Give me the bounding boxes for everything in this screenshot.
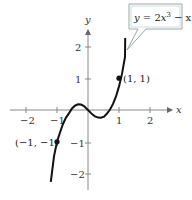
point-1-1 <box>116 76 121 81</box>
y-tick-label: 1 <box>75 74 81 85</box>
y-tick-label: −2 <box>70 169 85 180</box>
point-label-neg1-neg1: (−1, −1) <box>15 137 59 148</box>
x-tick-label: 1 <box>116 115 122 126</box>
equation-label: y = 2x3 − x <box>133 11 192 23</box>
y-tick-label: 2 <box>75 42 81 53</box>
x-tick-label: −2 <box>20 115 35 126</box>
function-graph: x y −2 −1 1 2 2 1 −1 −2 (1, 1) (−1, −1) … <box>0 0 192 200</box>
x-tick-label: 2 <box>147 115 153 126</box>
y-axis-label: y <box>84 14 91 25</box>
point-label-1-1: (1, 1) <box>123 73 150 84</box>
x-axis-label: x <box>176 104 182 115</box>
y-tick-label: −1 <box>70 138 85 149</box>
equation-callout: y = 2x3 − x <box>127 4 192 50</box>
